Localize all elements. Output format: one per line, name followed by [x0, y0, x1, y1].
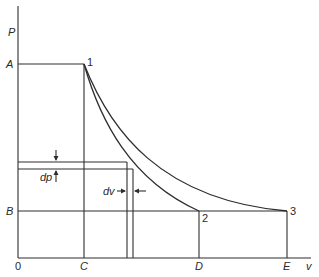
origin-label: 0 [15, 260, 21, 272]
y-axis-label: P [8, 26, 16, 38]
dp-arrows [54, 150, 59, 182]
dv-label: dv [103, 185, 116, 197]
dp-label: dp [40, 171, 52, 183]
point-label-3: 3 [290, 205, 296, 217]
volume-label-e: E [283, 260, 291, 272]
dv-arrows [117, 189, 146, 194]
x-axis-label: v [306, 260, 313, 272]
volume-label-c: C [80, 260, 88, 272]
volume-label-d: D [195, 260, 203, 272]
point-label-2: 2 [202, 212, 208, 224]
pv-diagram: P A B 0 C D E v 1 2 3 dp dv [0, 0, 319, 277]
point-label-1: 1 [87, 56, 93, 68]
pressure-label-b: B [6, 205, 13, 217]
curve-1-2 [84, 64, 199, 211]
pressure-label-a: A [5, 58, 13, 70]
